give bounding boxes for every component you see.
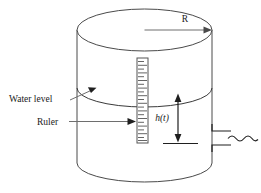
water-level-annotation-group: Water level bbox=[9, 87, 97, 104]
height-dimension-arrowhead-top bbox=[175, 94, 182, 103]
tank-diagram-canvas: R bbox=[0, 0, 261, 193]
ruler-label: Ruler bbox=[37, 117, 59, 127]
tank-diagram-figure: R bbox=[0, 0, 261, 193]
ruler-annotation-group: Ruler bbox=[37, 117, 136, 127]
height-dimension-group: h(t) bbox=[155, 94, 181, 143]
water-level-arrowhead bbox=[88, 87, 97, 93]
radius-label: R bbox=[182, 14, 189, 24]
outflow-stream-group bbox=[228, 136, 258, 141]
ruler-group bbox=[137, 58, 148, 143]
outflow-wavy-line bbox=[228, 136, 258, 141]
outlet-pipe-upper-wall bbox=[212, 124, 231, 131]
water-level-label: Water level bbox=[9, 94, 53, 104]
tank-bottom-arc bbox=[77, 163, 212, 182]
height-label: h(t) bbox=[155, 113, 169, 124]
ruler-arrowhead bbox=[128, 118, 137, 125]
outlet-pipe-lower-wall bbox=[212, 145, 231, 152]
height-dimension-arrowhead-bottom bbox=[175, 134, 182, 143]
